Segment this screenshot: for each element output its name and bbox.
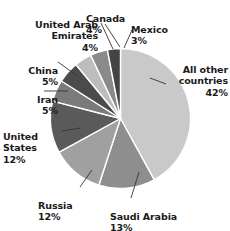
slice-label-name: Russia <box>38 200 72 211</box>
slice-label-all-other-countries: All other countries 42% <box>168 53 228 109</box>
slice-label-united-states: United States 12% <box>3 120 61 176</box>
slice-label-name: United States <box>3 131 38 153</box>
slice-label-value: 13% <box>110 222 190 231</box>
slice-label-value: 3% <box>131 35 187 46</box>
slice-label-mexico: Mexico 3% <box>131 13 187 58</box>
slice-label-value: 12% <box>3 154 61 165</box>
slice-label-name: Saudi Arabia <box>110 211 177 222</box>
pie-chart: United Arab Emirates 4% Canada 4% Mexico… <box>0 0 230 231</box>
slice-label-name: Mexico <box>131 24 168 35</box>
slice-label-name: All other countries <box>179 64 228 86</box>
slice-label-value: 42% <box>168 87 228 98</box>
slice-label-saudi-arabia: Saudi Arabia 13% <box>110 200 190 231</box>
slice-label-value: 12% <box>38 211 98 222</box>
slice-label-value: 5% <box>6 105 58 116</box>
slice-label-name: Canada <box>86 13 125 24</box>
slice-label-russia: Russia 12% <box>38 189 98 231</box>
slice-label-name: Iran <box>37 94 58 105</box>
slice-label-name: China <box>28 65 58 76</box>
